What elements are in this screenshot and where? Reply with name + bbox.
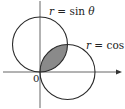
sin-label-theta: θ bbox=[88, 5, 94, 17]
cos-curve-label: r = cos θ bbox=[86, 40, 125, 51]
sin-label-eq: = sin bbox=[54, 5, 88, 17]
polar-curves-diagram: r = sin θ r = cos θ 0 bbox=[0, 0, 125, 109]
x-axis-arrowhead-icon bbox=[116, 70, 122, 75]
cos-label-eq: = cos bbox=[91, 39, 125, 51]
origin-label: 0 bbox=[33, 74, 39, 84]
sin-curve-label: r = sin θ bbox=[49, 6, 95, 17]
